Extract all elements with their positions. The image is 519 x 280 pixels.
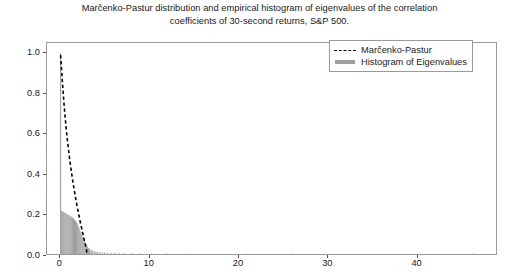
histogram-bar [73,218,74,254]
x-axis-tick-mark [327,255,328,258]
histogram-bar [189,253,190,254]
x-axis-tick-label: 40 [411,258,421,268]
histogram-bar [88,248,89,254]
histogram-bar [95,252,96,254]
plot-canvas [47,43,496,254]
histogram-bar [82,238,83,254]
legend-label-marcenko-pastur: Marčenko-Pastur [361,45,432,55]
histogram-bar [66,214,67,254]
legend-item-histogram: Histogram of Eigenvalues [334,56,467,68]
histogram-bar [104,252,105,254]
histogram-bar [72,217,73,254]
histogram-bar [65,213,66,254]
histogram-bar [78,227,79,254]
histogram-bar [81,235,82,254]
chart-title: Marčenko-Pastur distribution and empiric… [0,2,519,27]
x-axis-tick-mark [59,255,60,258]
dashed-line-icon [334,45,356,55]
histogram-bar [97,252,98,254]
x-axis-tick-label: 30 [322,258,332,268]
histogram-bar [102,252,103,254]
y-axis-tick-label: 0.8 [27,88,40,98]
y-axis-tick-labels: 0.00.20.40.60.81.0 [0,42,40,255]
histogram-bar [61,211,62,254]
histogram-bar [75,221,76,254]
y-axis-tick-mark [43,255,46,256]
histogram-bar [92,251,93,254]
histogram-bar [62,211,63,254]
histogram-bar [110,253,111,254]
chart-title-line-2: coefficients of 30-second returns, S&P 5… [0,15,519,28]
y-axis-tick-label: 1.0 [27,47,40,57]
histogram-bar [84,240,85,254]
chart-legend: Marčenko-Pastur Histogram of Eigenvalues [329,40,473,72]
histogram-bar [114,253,115,254]
histogram-bar [80,232,81,254]
histogram-bar [74,219,75,254]
histogram-bar [70,216,71,254]
histogram-bar [166,253,167,254]
legend-label-histogram: Histogram of Eigenvalues [361,57,467,67]
histogram-bar [60,53,61,254]
y-axis-tick-label: 0.4 [27,169,40,179]
histogram-bar [473,253,474,254]
plot-area [46,42,497,255]
histogram-bar [151,253,152,254]
y-axis-tick-label: 0.6 [27,128,40,138]
histogram-bar [89,249,90,254]
histogram-bar [90,250,91,254]
x-axis-tick-mark [417,255,418,258]
y-axis-tick-label: 0.2 [27,209,40,219]
histogram-bar [69,215,70,254]
histogram-bar [107,253,108,254]
histogram-bar [131,253,132,254]
histogram-bar [124,253,125,254]
legend-item-marcenko-pastur: Marčenko-Pastur [334,44,467,56]
histogram-bar [68,215,69,254]
chart-title-line-1: Marčenko-Pastur distribution and empiric… [0,2,519,15]
histogram-bar [118,253,119,254]
x-axis-tick-labels: 010203040 [0,258,519,274]
histogram-bar [140,253,141,254]
x-axis-tick-mark [238,255,239,258]
x-axis-tick-mark [149,255,150,258]
x-axis-tick-label: 0 [57,258,62,268]
histogram-bar [79,229,80,254]
chart-figure: Marčenko-Pastur distribution and empiric… [0,0,519,280]
histogram-bar [63,212,64,254]
x-axis-tick-label: 10 [144,258,154,268]
histogram-bar [77,224,78,254]
histogram-bar [71,217,72,254]
histogram-bar [94,251,95,254]
histogram-bar [64,213,65,254]
histogram-bars [60,53,474,254]
histogram-bar [99,252,100,254]
x-axis-tick-label: 20 [233,258,243,268]
bar-swatch-icon [334,57,356,67]
histogram-bar [76,222,77,254]
